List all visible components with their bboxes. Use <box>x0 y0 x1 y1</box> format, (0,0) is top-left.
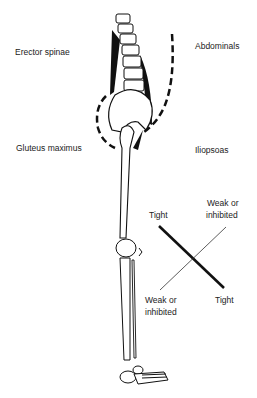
femur <box>120 126 134 238</box>
tight-line <box>159 226 224 288</box>
label-gluteus-maximus: Gluteus maximus <box>16 143 82 153</box>
foot <box>120 366 168 384</box>
label-weak-bottom-1: Weak or <box>145 295 177 305</box>
label-weak-top-2: inhibited <box>206 210 238 220</box>
label-tight-bottom: Tight <box>215 295 234 305</box>
anatomy-diagram: Erector spinae Abdominals Gluteus maximu… <box>0 0 257 398</box>
knee <box>116 239 136 257</box>
pelvis <box>109 90 153 132</box>
spine <box>116 14 144 91</box>
tibia <box>120 258 130 360</box>
label-erector-spinae: Erector spinae <box>15 47 70 57</box>
label-iliopsoas: Iliopsoas <box>195 145 229 155</box>
label-weak-top-1: Weak or <box>207 198 239 208</box>
label-abdominals: Abdominals <box>195 41 239 51</box>
fibula <box>132 260 136 358</box>
label-tight-top: Tight <box>149 210 168 220</box>
erector-spinae-muscle <box>110 30 120 95</box>
label-weak-bottom-2: inhibited <box>145 307 177 317</box>
